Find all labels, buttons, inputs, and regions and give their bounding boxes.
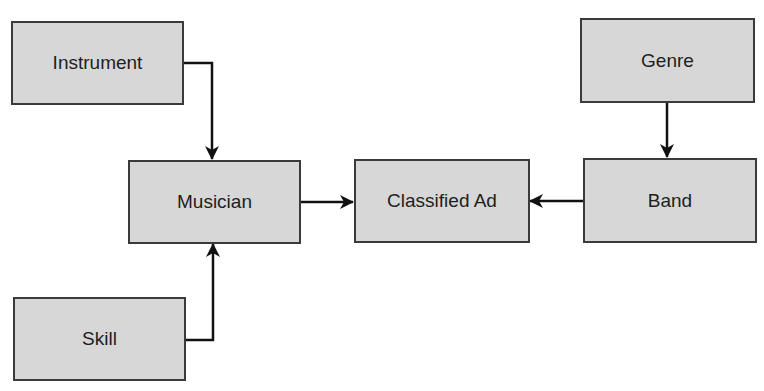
node-genre: Genre [580, 18, 755, 103]
arrow-instrument-to-musician [183, 63, 212, 159]
node-instrument: Instrument [11, 21, 184, 105]
node-classified-ad: Classified Ad [354, 159, 530, 243]
node-band: Band [583, 158, 757, 243]
node-skill: Skill [13, 297, 186, 381]
arrow-skill-to-musician [185, 244, 213, 340]
node-musician: Musician [128, 160, 301, 244]
